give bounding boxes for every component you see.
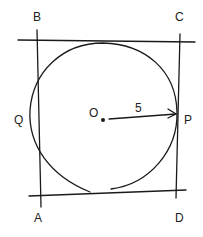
label-c: C	[175, 10, 184, 24]
side-bc	[18, 40, 195, 42]
label-b: B	[33, 10, 41, 24]
label-q: Q	[14, 113, 23, 127]
label-d: D	[175, 211, 184, 225]
side-ad	[29, 190, 186, 196]
geometry-diagram: B C A D O P Q 5	[0, 0, 203, 237]
radius-line	[109, 114, 176, 119]
label-o: O	[89, 106, 98, 120]
circle	[30, 43, 177, 192]
center-point-o	[101, 118, 105, 122]
label-p: P	[184, 113, 192, 127]
label-radius: 5	[135, 101, 142, 115]
side-ab	[37, 30, 41, 207]
label-a: A	[34, 211, 42, 225]
arrowhead-icon	[168, 109, 176, 118]
